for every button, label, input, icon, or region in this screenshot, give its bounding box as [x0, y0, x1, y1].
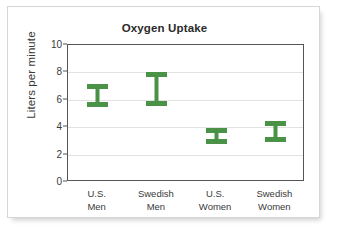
- x-tick-label-line: U.S.: [87, 188, 105, 201]
- x-axis-labels: U.S.MenSwedishMenU.S.WomenSwedishWomen: [67, 185, 304, 217]
- y-tick-label: 4: [56, 121, 62, 132]
- x-tick-label-line: U.S.: [199, 188, 232, 201]
- x-tick-label: U.S.Men: [87, 188, 105, 213]
- y-tick-label: 0: [56, 176, 62, 187]
- x-tick-label-line: Men: [87, 201, 105, 214]
- x-tick-label-line: Swedish: [256, 188, 292, 201]
- chart-card: Oxygen Uptake Liters per minute 0246810 …: [7, 6, 320, 218]
- y-axis-title: Liters per minute: [25, 10, 37, 140]
- y-tick-mark: [63, 153, 67, 154]
- chart-title: Oxygen Uptake: [8, 22, 321, 34]
- y-tick-label: 2: [56, 148, 62, 159]
- y-tick-mark: [63, 71, 67, 72]
- y-tick-mark: [63, 126, 67, 127]
- x-tick-label-line: Women: [199, 201, 232, 214]
- x-tick-label-line: Men: [138, 201, 174, 214]
- y-tick-mark: [63, 44, 67, 45]
- y-tick-label: 6: [56, 93, 62, 104]
- x-tick-label: SwedishMen: [138, 188, 174, 213]
- y-axis-ticks: 0246810: [67, 44, 304, 181]
- x-tick-label-line: Women: [256, 201, 292, 214]
- y-tick-mark: [63, 181, 67, 182]
- y-tick-mark: [63, 98, 67, 99]
- x-tick-label-line: Swedish: [138, 188, 174, 201]
- x-tick-label: U.S.Women: [199, 188, 232, 213]
- y-tick-label: 10: [51, 39, 62, 50]
- y-tick-label: 8: [56, 66, 62, 77]
- x-tick-label: SwedishWomen: [256, 188, 292, 213]
